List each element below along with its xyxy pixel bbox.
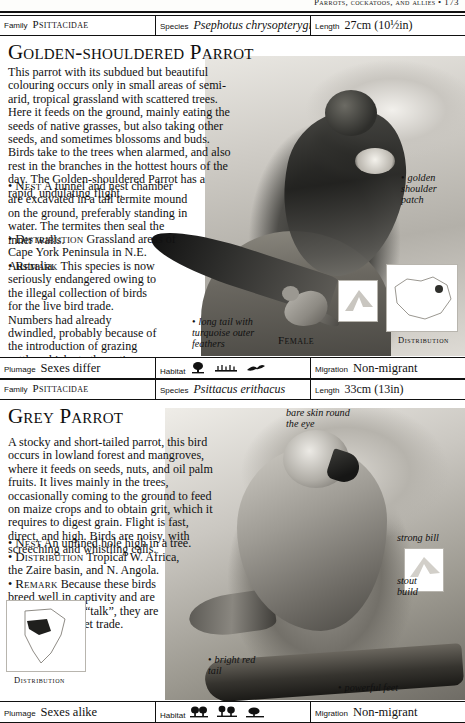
family-value: Psittacidae [33, 382, 89, 394]
bird-silhouette-icon [339, 281, 379, 323]
distribution-map-label: Distribution [398, 335, 449, 345]
silhouette-box [338, 280, 378, 322]
trees-icon [217, 705, 237, 718]
plumage-cell: Plumage Sexes alike [0, 702, 155, 722]
species-cell: Species Psephotus chrysopterygius [155, 16, 310, 35]
data-bar: Plumage Sexes differ Habitat [0, 357, 465, 379]
distribution-map [6, 600, 86, 672]
entry-body: Grey Parrot A stocky and short-tailed pa… [0, 400, 465, 701]
callout-stout-build: stout build [397, 575, 439, 597]
bullet-dot: • [8, 536, 12, 550]
plumage-label: Plumage [4, 365, 36, 374]
bullet-dot: • [8, 232, 12, 246]
callout-strong-bill: strong bill [397, 532, 439, 543]
entry-golden-shouldered-parrot: Family Psittacidae Species Psephotus chr… [0, 15, 465, 379]
habitat-cell: Habitat [155, 702, 310, 722]
bullet-distribution-head: Distribution [15, 549, 83, 564]
bullet-remark: • Remark This species is now seriously e… [8, 259, 160, 357]
habitat-label: Habitat [160, 711, 185, 720]
callout-powerful-feet: powerful feet [338, 682, 416, 693]
migration-cell: Migration Non-migrant [310, 358, 465, 378]
bullet-remark-text: This species is now seriously endangered… [8, 259, 156, 357]
length-cell: Length 27cm (10½in) [310, 16, 465, 35]
migration-value: Non-migrant [353, 705, 418, 720]
family-cell: Family Psittacidae [0, 380, 155, 399]
entry-body: Golden-shouldered Parrot This parrot wit… [0, 36, 465, 357]
species-label: Species [160, 386, 188, 395]
migration-label: Migration [315, 709, 348, 718]
bullet-dot: • [8, 179, 12, 193]
length-cell: Length 33cm (13in) [310, 380, 465, 399]
entry-grey-parrot: Family Psittacidae Species Psittacus eri… [0, 379, 465, 723]
bullet-remark-head: Remark [15, 576, 57, 591]
bird-head [325, 90, 377, 136]
plumage-cell: Plumage Sexes differ [0, 358, 155, 378]
female-label: Female [278, 334, 314, 346]
bullet-nest-head: Nest [15, 535, 41, 550]
bullet-dot: • [8, 577, 12, 591]
length-value: 27cm (10½in) [344, 18, 412, 33]
world-map-icon [387, 265, 459, 333]
habitat-icons [190, 361, 266, 375]
family-value: Psittacidae [33, 18, 89, 30]
callout-bare-skin-round-eye: bare skin round the eye [286, 407, 364, 429]
callout-bright-red-tail: bright red tail [208, 654, 260, 676]
habitat-cell: Habitat [155, 358, 310, 378]
data-bar: Plumage Sexes alike Habitat [0, 701, 465, 723]
habitat-label: Habitat [160, 367, 185, 376]
africa-map-icon [7, 601, 87, 673]
migration-label: Migration [315, 365, 348, 374]
running-head-text: Parrots, cockatoos, and allies • 173 [314, 0, 459, 7]
migration-cell: Migration Non-migrant [310, 702, 465, 722]
length-label: Length [315, 22, 339, 31]
species-value: Psittacus erithacus [193, 382, 285, 397]
id-bar: Family Psittacidae Species Psittacus eri… [0, 379, 465, 400]
distribution-map-label: Distribution [14, 675, 65, 685]
bullet-dot: • [8, 550, 12, 564]
bullet-distribution-head: Distribution [15, 231, 83, 246]
plumage-value: Sexes alike [41, 705, 98, 720]
family-cell: Family Psittacidae [0, 16, 155, 35]
callout-long-tail: long tail with turquoise outer feathers [192, 316, 264, 350]
habitat-icons [190, 705, 264, 719]
page-title: Golden-shouldered Parrot [8, 40, 465, 65]
species-label: Species [160, 22, 188, 31]
plumage-label: Plumage [4, 709, 36, 718]
female-head [282, 286, 299, 301]
migration-value: Non-migrant [353, 361, 418, 376]
bullet-dot: • [8, 259, 12, 273]
bullet-distribution: • Distribution Tropical W. Africa, the Z… [8, 550, 196, 578]
bird-flight-icon [246, 363, 266, 374]
running-head: Parrots, cockatoos, and allies • 173 [0, 0, 465, 11]
shoulder-patch [355, 148, 395, 174]
length-label: Length [315, 386, 339, 395]
tree-icon [190, 361, 206, 374]
callout-golden-shoulder-patch: golden shoulder patch [401, 172, 457, 206]
distribution-map [386, 264, 458, 332]
species-value: Psephotus chrysopterygius [193, 18, 310, 33]
forest-icon [190, 705, 208, 718]
grassland-icon [215, 361, 237, 374]
id-bar: Family Psittacidae Species Psephotus chr… [0, 15, 465, 36]
species-cell: Species Psittacus erithacus [155, 380, 310, 399]
page-title: Grey Parrot [8, 404, 465, 429]
bullet-nest-head: Nest [15, 178, 41, 193]
bullet-remark-head: Remark [15, 258, 57, 273]
bullet-nest-text: An unlined hole high in a tree. [44, 536, 191, 550]
plumage-value: Sexes differ [41, 361, 101, 376]
family-label: Family [4, 21, 28, 30]
family-label: Family [4, 385, 28, 394]
scrub-icon [246, 705, 264, 718]
length-value: 33cm (13in) [344, 382, 403, 397]
